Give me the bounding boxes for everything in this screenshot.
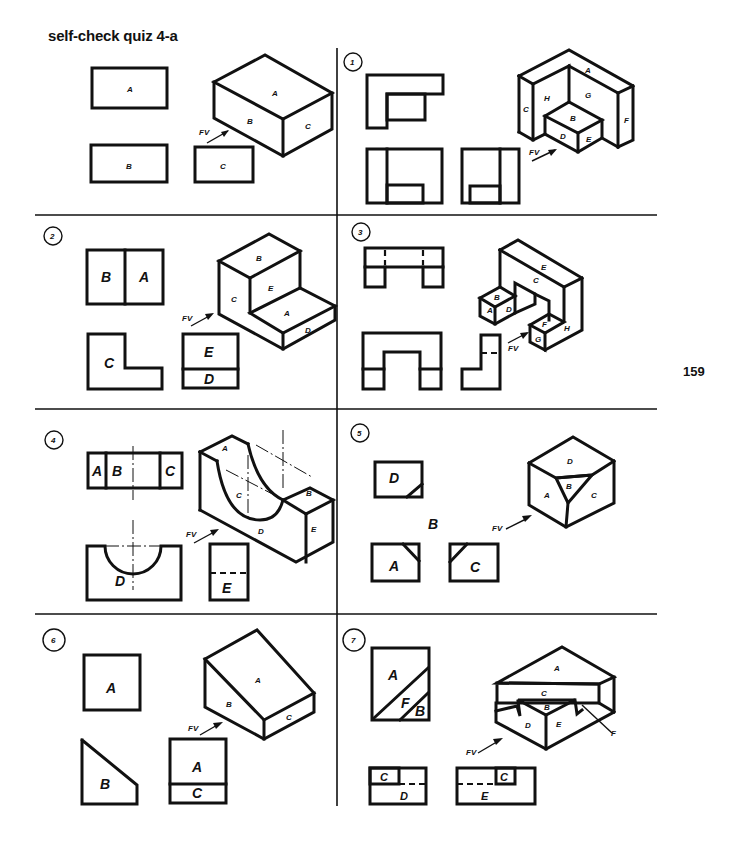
- svg-text:A: A: [486, 306, 493, 315]
- fv-label: FV: [529, 148, 540, 157]
- fv-label: FV: [199, 128, 210, 137]
- svg-text:D: D: [305, 326, 311, 335]
- svg-text:7: 7: [351, 636, 356, 645]
- svg-text:A: A: [138, 269, 149, 285]
- svg-text:A: A: [105, 680, 116, 696]
- svg-text:C: C: [305, 122, 311, 131]
- svg-text:C: C: [220, 162, 226, 171]
- svg-text:D: D: [115, 573, 125, 589]
- svg-text:C: C: [500, 771, 509, 783]
- svg-text:C: C: [236, 491, 242, 500]
- svg-text:E: E: [556, 720, 562, 729]
- svg-text:A: A: [254, 676, 261, 685]
- svg-text:C: C: [231, 295, 237, 304]
- svg-text:D: D: [525, 721, 531, 730]
- svg-text:F: F: [542, 320, 548, 329]
- svg-text:G: G: [535, 335, 541, 344]
- problem-example: A B C A B C FV: [91, 55, 332, 182]
- svg-text:D: D: [506, 305, 512, 314]
- svg-text:A: A: [283, 309, 290, 318]
- svg-text:A: A: [191, 759, 202, 775]
- svg-text:B: B: [544, 703, 550, 712]
- svg-text:A: A: [584, 66, 591, 75]
- svg-text:B: B: [306, 489, 312, 498]
- svg-text:C: C: [470, 559, 481, 575]
- svg-text:3: 3: [358, 228, 363, 237]
- problem-2: 2 B A C E D B C E A D FV: [44, 227, 335, 389]
- svg-text:D: D: [258, 527, 264, 536]
- svg-text:B: B: [126, 162, 132, 171]
- problem-5: 5 D B A C D B A C FV: [351, 424, 614, 581]
- svg-text:F: F: [611, 729, 617, 738]
- svg-text:C: C: [380, 771, 389, 783]
- svg-text:E: E: [586, 135, 592, 144]
- problem-6: 6 A B A C A B C FV: [43, 629, 314, 804]
- svg-text:A: A: [91, 463, 102, 479]
- svg-text:6: 6: [51, 636, 56, 645]
- svg-text:E: E: [268, 284, 274, 293]
- svg-text:F: F: [624, 116, 630, 125]
- svg-text:B: B: [428, 516, 438, 532]
- problem-4: 4 A B C D E A B C D E FV: [45, 430, 333, 600]
- svg-text:B: B: [494, 293, 500, 302]
- problem-1: 1 A B C D E F G H FV: [344, 50, 633, 203]
- svg-text:A: A: [388, 558, 399, 574]
- fv-label: FV: [186, 530, 197, 539]
- svg-text:2: 2: [49, 232, 55, 241]
- svg-text:D: D: [204, 371, 214, 387]
- fv-label: FV: [188, 724, 199, 733]
- svg-text:A: A: [126, 85, 133, 94]
- svg-text:E: E: [204, 344, 214, 360]
- problem-7: 7 A F B C D C E A C B D E F FV: [343, 629, 617, 804]
- svg-text:E: E: [311, 525, 317, 534]
- svg-text:C: C: [286, 713, 292, 722]
- svg-text:B: B: [101, 269, 111, 285]
- svg-text:E: E: [481, 790, 489, 802]
- svg-text:5: 5: [357, 429, 362, 438]
- svg-text:A: A: [543, 491, 550, 500]
- svg-text:B: B: [247, 117, 253, 126]
- quiz-drawing-sheet: A B C A B C FV 1: [0, 0, 734, 848]
- svg-text:E: E: [541, 263, 547, 272]
- svg-text:H: H: [564, 324, 570, 333]
- svg-text:C: C: [591, 491, 597, 500]
- svg-text:G: G: [585, 91, 591, 100]
- svg-text:B: B: [100, 776, 110, 792]
- svg-text:A: A: [221, 444, 228, 453]
- svg-text:4: 4: [50, 436, 56, 445]
- svg-text:D: D: [400, 790, 408, 802]
- svg-text:B: B: [415, 703, 425, 719]
- svg-text:D: D: [389, 470, 399, 486]
- svg-text:C: C: [533, 276, 539, 285]
- svg-text:C: C: [104, 355, 115, 371]
- svg-text:H: H: [544, 94, 550, 103]
- svg-text:C: C: [165, 463, 176, 479]
- fv-label: FV: [508, 344, 519, 353]
- fv-label: FV: [492, 524, 503, 533]
- svg-text:E: E: [222, 580, 232, 596]
- svg-text:C: C: [523, 105, 529, 114]
- svg-text:D: D: [567, 457, 573, 466]
- svg-text:C: C: [192, 785, 203, 801]
- fv-label: FV: [466, 748, 477, 757]
- svg-text:B: B: [226, 700, 232, 709]
- svg-text:A: A: [553, 664, 560, 673]
- svg-text:1: 1: [350, 58, 355, 67]
- svg-text:A: A: [387, 667, 398, 683]
- svg-text:A: A: [271, 89, 278, 98]
- svg-text:C: C: [541, 689, 547, 698]
- svg-text:B: B: [112, 463, 122, 479]
- svg-text:B: B: [566, 482, 572, 491]
- fv-label: FV: [182, 314, 193, 323]
- svg-text:B: B: [570, 114, 576, 123]
- problem-3: 3 E C B A D F G H FV: [352, 223, 582, 389]
- svg-text:D: D: [560, 132, 566, 141]
- svg-text:F: F: [401, 695, 410, 711]
- svg-text:B: B: [256, 254, 262, 263]
